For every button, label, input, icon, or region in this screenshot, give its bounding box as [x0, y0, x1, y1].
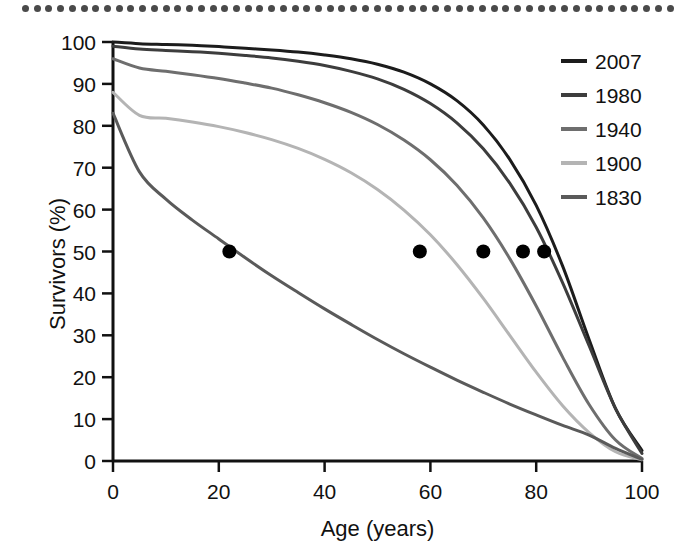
- y-axis-title: Survivors (%): [45, 144, 71, 384]
- x-tick-label: 100: [624, 481, 659, 502]
- y-tick-label: 90: [30, 73, 96, 94]
- legend-item-1940: 1940: [561, 112, 679, 146]
- median-age-dot: [222, 245, 236, 259]
- legend-label: 1940: [595, 119, 642, 140]
- legend-line-swatch: [561, 195, 587, 199]
- y-tick-label: 100: [30, 32, 96, 53]
- x-tick-label: 40: [313, 481, 336, 502]
- x-tick-label: 80: [525, 481, 548, 502]
- legend-line-swatch: [561, 93, 587, 97]
- legend-item-1830: 1830: [561, 180, 679, 214]
- legend: 20071980194019001830: [561, 44, 679, 214]
- legend-label: 1900: [595, 153, 642, 174]
- legend-line-swatch: [561, 161, 587, 165]
- median-age-dot: [516, 245, 530, 259]
- legend-item-1900: 1900: [561, 146, 679, 180]
- legend-line-swatch: [561, 127, 587, 131]
- survivorship-curve-figure: 0102030405060708090100 020406080100 Surv…: [0, 0, 682, 557]
- median-age-dot: [537, 245, 551, 259]
- legend-item-2007: 2007: [561, 44, 679, 78]
- x-tick-label: 20: [207, 481, 230, 502]
- median-age-dot: [476, 245, 490, 259]
- y-tick-label: 10: [30, 409, 96, 430]
- legend-label: 2007: [595, 51, 642, 72]
- legend-item-1980: 1980: [561, 78, 679, 112]
- legend-label: 1980: [595, 85, 642, 106]
- legend-line-swatch: [561, 59, 587, 63]
- x-axis-title: Age (years): [113, 516, 642, 542]
- x-tick-label: 0: [107, 481, 119, 502]
- y-tick-label: 80: [30, 115, 96, 136]
- y-tick-label: 0: [30, 451, 96, 472]
- median-age-dot: [413, 245, 427, 259]
- x-tick-label: 60: [419, 481, 442, 502]
- legend-label: 1830: [595, 187, 642, 208]
